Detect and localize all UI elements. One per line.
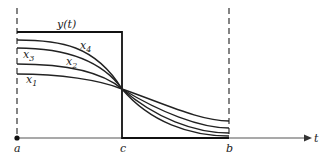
label-x4: x4 [80, 39, 91, 54]
label-point-b: b [226, 142, 233, 155]
step-function-y [17, 32, 229, 138]
label-t-axis: t [314, 132, 319, 145]
label-point-c: c [120, 142, 126, 155]
point-a-marker [14, 135, 19, 140]
label-x1: x1 [26, 73, 37, 88]
label-y-of-t: y(t) [56, 18, 76, 31]
label-point-a: a [14, 142, 21, 155]
axis-arrowhead-icon [304, 135, 312, 142]
curve-x3 [17, 48, 229, 133]
diagram-canvas: y(t) x4 x3 x2 x1 a c b t [0, 0, 322, 155]
label-x3: x3 [23, 48, 34, 63]
curve-x2 [17, 64, 229, 128]
label-x2: x2 [66, 55, 77, 70]
curve-x4 [17, 40, 229, 136]
curve-x1 [17, 74, 229, 121]
